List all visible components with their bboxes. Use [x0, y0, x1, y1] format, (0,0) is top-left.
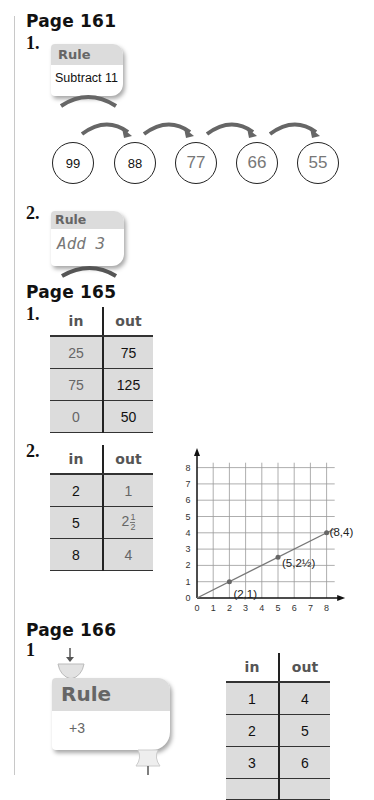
table-cell: 75: [103, 336, 153, 369]
table-cell: 1: [226, 682, 279, 715]
x-tick-label: 7: [308, 603, 313, 613]
y-tick-label: 5: [185, 512, 190, 522]
column-header-in: in: [50, 307, 103, 336]
sequence-circle: 88: [114, 142, 156, 184]
table-row: 2 1: [50, 474, 153, 507]
table-row: 0 50: [50, 401, 153, 433]
rule-text: +3: [52, 711, 170, 745]
point-label: (5,2½): [282, 557, 315, 569]
rule-title: Rule: [51, 211, 124, 229]
x-tick-label: 4: [259, 603, 264, 613]
data-point: [276, 555, 281, 560]
table-cell: 4: [279, 682, 330, 715]
x-tick-label: 0: [194, 603, 199, 613]
page-heading-166: Page 166: [26, 620, 116, 640]
x-tick-label: 8: [324, 603, 329, 613]
denominator: 2: [130, 523, 135, 532]
fraction: 12: [130, 513, 135, 532]
sequence-circle-answer: 55: [297, 142, 339, 184]
y-axis-arrow-icon: [194, 448, 200, 456]
table-cell: 0: [50, 401, 103, 433]
page-heading-165: Page 165: [26, 282, 116, 302]
sequence-circle-answer: 77: [175, 142, 217, 184]
problem-number: 1: [26, 640, 35, 661]
table-cell: 5: [50, 507, 103, 539]
rule-text: Add 3: [51, 229, 124, 259]
table-row: 5 212: [50, 507, 153, 539]
line-graph: 012345678012345678(2,1)(5,2½)(8,4): [180, 448, 374, 618]
table-row: 75 125: [50, 369, 153, 401]
table-cell: 4: [103, 539, 153, 571]
table-cell: 1: [103, 474, 153, 507]
table-cell: 50: [103, 401, 153, 433]
data-point: [324, 530, 329, 535]
page-heading-161: Page 161: [26, 11, 116, 31]
table-cell: 2: [226, 715, 279, 747]
y-tick-label: 8: [185, 463, 190, 473]
table-row: 3 6: [226, 747, 330, 779]
x-tick-label: 3: [243, 603, 248, 613]
table-cell: 75: [50, 369, 103, 401]
rule-title: Rule: [51, 44, 123, 65]
output-funnel-icon: [134, 748, 164, 775]
y-tick-label: 1: [185, 577, 190, 587]
rule-title: Rule: [52, 678, 170, 711]
table-cell: 5: [279, 715, 330, 747]
point-label: (8,4): [330, 526, 354, 538]
problem-number: 1.: [26, 304, 40, 325]
y-tick-label: 2: [185, 560, 190, 570]
x-tick-label: 6: [292, 603, 297, 613]
in-out-table: in out 1 4 2 5 3 6: [226, 653, 330, 800]
data-point: [227, 579, 232, 584]
problem-number: 2.: [26, 441, 40, 462]
rule-box: Rule Subtract 11: [51, 44, 123, 96]
whole-part: 2: [122, 513, 130, 529]
table-cell: 125: [103, 369, 153, 401]
table-cell: 2: [50, 474, 103, 507]
sequence-circle: 99: [52, 142, 94, 184]
table-row: 8 4: [50, 539, 153, 571]
column-header-out: out: [103, 307, 153, 336]
table-row: 1 4: [226, 682, 330, 715]
column-header-in: in: [50, 445, 103, 474]
problem-number: 2.: [26, 203, 40, 224]
rule-arc-icon: [58, 90, 122, 110]
table-row: 25 75: [50, 336, 153, 369]
column-header-in: in: [226, 653, 279, 682]
input-funnel-icon: [56, 648, 96, 680]
column-header-out: out: [279, 653, 330, 682]
x-axis-arrow-icon: [337, 595, 345, 601]
margin-line: [14, 16, 15, 775]
table-cell: 8: [50, 539, 103, 571]
table-cell: 25: [50, 336, 103, 369]
rule-box: Rule +3: [52, 678, 170, 750]
rule-arc-icon: [58, 258, 122, 280]
x-tick-label: 2: [227, 603, 232, 613]
y-tick-label: 7: [185, 479, 190, 489]
problem-number: 1.: [26, 33, 40, 54]
column-header-out: out: [103, 445, 153, 474]
y-tick-label: 4: [185, 528, 190, 538]
table-cell: 3: [226, 747, 279, 779]
point-label: (2,1): [233, 588, 257, 600]
y-tick-label: 3: [185, 544, 190, 554]
x-tick-label: 1: [211, 603, 216, 613]
rule-text: Subtract 11: [51, 65, 123, 91]
y-tick-label: 0: [185, 593, 190, 603]
y-tick-label: 6: [185, 495, 190, 505]
sequence-arrows: [78, 118, 338, 148]
table-row: 2 5: [226, 715, 330, 747]
in-out-table: in out 25 75 75 125 0 50: [50, 307, 153, 433]
table-row-partial: [226, 779, 330, 800]
table-cell-mixed-number: 212: [103, 507, 153, 539]
table-cell: 6: [279, 747, 330, 779]
in-out-table: in out 2 1 5 212 8 4: [50, 445, 153, 571]
sequence-circle-answer: 66: [236, 142, 278, 184]
x-tick-label: 5: [275, 603, 280, 613]
